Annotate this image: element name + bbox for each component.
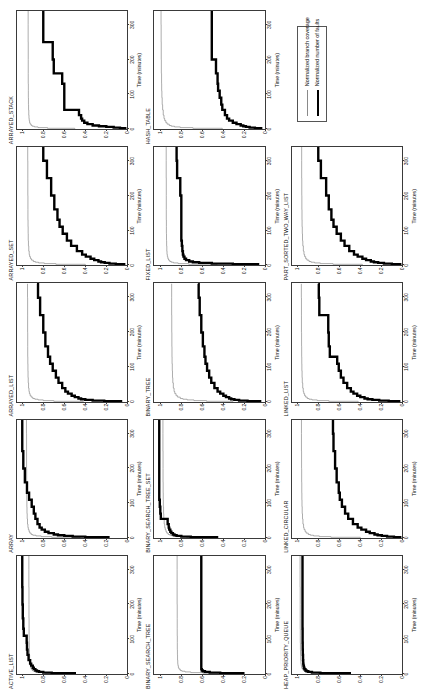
y-axis-tick-label: 0.8: [41, 540, 46, 547]
y-axis-tick-mark: [381, 674, 382, 676]
y-axis-tick-label: 0.6: [62, 676, 67, 683]
y-axis-tick-label: 0.8: [315, 267, 320, 274]
y-axis-tick-mark: [85, 402, 86, 404]
series-line-coverage: [301, 420, 360, 538]
series-line-faults: [202, 556, 244, 674]
x-axis-tick-mark: [265, 433, 267, 434]
y-axis-tick-mark: [43, 129, 44, 131]
series-line-faults: [212, 11, 261, 129]
x-axis-tick-mark: [265, 366, 267, 367]
y-axis-tick-label: 0.6: [62, 131, 67, 138]
y-axis-tick-mark: [181, 674, 182, 676]
y-axis-tick-label: 0.4: [83, 267, 88, 274]
chart-panel-linked-circular: LINKED_CIRCULAR00.20.40.60.810100200300T…: [283, 417, 420, 553]
y-axis-tick-label: 0.8: [315, 540, 320, 547]
series-canvas: [292, 556, 402, 674]
y-axis-tick-label: 0: [125, 131, 130, 134]
x-axis-label: Time (minutes): [136, 556, 142, 674]
y-axis-tick-mark: [318, 538, 319, 540]
x-axis-tick-mark: [402, 433, 404, 434]
x-axis-tick-mark: [127, 128, 129, 129]
y-axis-tick-mark: [244, 129, 245, 131]
y-axis-tick-label: 0: [125, 676, 130, 679]
x-axis-tick-label: 200: [267, 192, 272, 200]
y-axis-tick-mark: [22, 674, 23, 676]
y-axis-tick-label: 0.8: [178, 540, 183, 547]
y-axis-tick-mark: [202, 402, 203, 404]
y-axis-tick-label: 0.2: [104, 267, 109, 274]
y-axis-tick-mark: [339, 538, 340, 540]
y-axis-tick-mark: [181, 402, 182, 404]
y-axis-tick-label: 1: [20, 540, 25, 543]
x-axis-label: Time (minutes): [411, 420, 417, 538]
x-axis-tick-mark: [127, 569, 129, 570]
panel-title: PART_SORTED_TWO_WAY_LIST: [283, 144, 290, 280]
y-axis-tick-mark: [297, 265, 298, 267]
x-axis-tick-mark: [265, 230, 267, 231]
x-axis-tick-mark: [127, 331, 129, 332]
y-axis-tick-mark: [223, 129, 224, 131]
series-line-faults: [43, 11, 125, 129]
panel-title: BINARY_TREE: [145, 280, 152, 416]
series-canvas: [17, 11, 127, 129]
x-axis-label: Time (minutes): [411, 283, 417, 401]
y-axis-tick-label: 0: [262, 131, 267, 134]
y-axis-tick-mark: [360, 674, 361, 676]
plot-area: 00.20.40.60.810100200300Time (minutes): [291, 419, 403, 539]
plot-area: 00.20.40.60.810100200300Time (minutes): [16, 555, 128, 675]
x-axis-tick-mark: [402, 537, 404, 538]
y-axis-tick-label: 0: [262, 676, 267, 679]
panel-title: HEAP_PRIORITY_QUEUE: [283, 553, 290, 689]
series-canvas: [154, 11, 264, 129]
y-axis-tick-label: 1: [294, 404, 299, 407]
y-axis-tick-mark: [202, 129, 203, 131]
y-axis-tick-label: 0.6: [199, 267, 204, 274]
y-axis-tick-mark: [202, 265, 203, 267]
y-axis-tick-mark: [106, 129, 107, 131]
y-axis-tick-mark: [244, 674, 245, 676]
x-axis-tick-mark: [127, 638, 129, 639]
x-axis-tick-label: 200: [130, 600, 135, 608]
series-line-faults: [22, 420, 108, 538]
y-axis-tick-label: 0.6: [336, 267, 341, 274]
x-axis-tick-mark: [265, 331, 267, 332]
series-line-coverage: [301, 147, 362, 265]
x-axis-tick-mark: [265, 673, 267, 674]
x-axis-tick-label: 300: [130, 429, 135, 437]
series-line-faults: [317, 147, 400, 265]
y-axis-tick-mark: [181, 538, 182, 540]
x-axis-tick-mark: [127, 366, 129, 367]
x-axis-tick-mark: [402, 502, 404, 503]
y-axis-tick-label: 0.6: [199, 540, 204, 547]
chart-panel-heap-priority-queue: HEAP_PRIORITY_QUEUE00.20.40.60.810100200…: [283, 553, 420, 689]
y-axis-tick-label: 0.2: [104, 676, 109, 683]
x-axis-tick-label: 0: [404, 264, 409, 267]
y-axis-tick-label: 1: [20, 131, 25, 134]
x-axis-tick-mark: [402, 569, 404, 570]
y-axis-tick-label: 0.6: [336, 404, 341, 411]
y-axis-tick-label: 0.2: [378, 540, 383, 547]
legend-item: Normalized branch coverage: [302, 32, 312, 116]
series-line-faults: [160, 420, 218, 538]
plot-area: 00.20.40.60.810100200300Time (minutes): [16, 419, 128, 539]
x-axis-tick-mark: [402, 673, 404, 674]
x-axis-tick-mark: [265, 128, 267, 129]
series-line-faults: [198, 283, 260, 401]
x-axis-tick-label: 0: [404, 673, 409, 676]
plot-area: 00.20.40.60.810100200300Time (minutes): [291, 282, 403, 402]
y-axis-tick-mark: [202, 538, 203, 540]
y-axis-tick-mark: [85, 538, 86, 540]
y-axis-tick-mark: [85, 129, 86, 131]
x-axis-tick-mark: [265, 502, 267, 503]
figure-rotation-wrapper: ACTIVE_LIST00.20.40.60.810100200300Time …: [0, 0, 426, 699]
series-canvas: [154, 420, 264, 538]
y-axis-tick-mark: [64, 674, 65, 676]
x-axis-tick-label: 0: [130, 400, 135, 403]
y-axis-tick-mark: [106, 538, 107, 540]
y-axis-tick-label: 0.8: [178, 676, 183, 683]
x-axis-tick-label: 300: [130, 157, 135, 165]
legend-item: Normalized number of faults: [312, 32, 322, 116]
x-axis-tick-label: 100: [267, 363, 272, 371]
y-axis-tick-label: 0.2: [241, 404, 246, 411]
y-axis-tick-label: 0: [125, 404, 130, 407]
